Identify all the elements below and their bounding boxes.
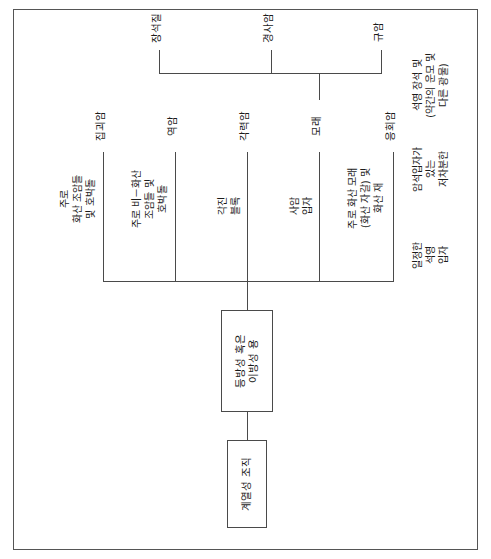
connector-sand-to-subtrunk — [319, 74, 320, 100]
branch-line-4 — [319, 244, 320, 282]
branch-term-1: 집괴암 — [94, 100, 107, 152]
branch-term-4: 모래 — [310, 100, 323, 152]
branch-line-3 — [247, 244, 248, 282]
connector-level2-to-trunk — [247, 282, 248, 310]
node-root: 계열성 조직 — [227, 440, 267, 528]
sub-branch-term-2: 경사암 — [262, 4, 275, 52]
branch-line-2 — [175, 244, 176, 282]
branch-line-5-ext — [393, 152, 394, 244]
branch-term-2: 역암 — [166, 100, 179, 152]
branch-line-1 — [103, 244, 104, 282]
connector-root-to-level2 — [247, 412, 248, 440]
branch-descriptor-1: 주로 화산 조암들 및 호박돌 — [59, 140, 97, 258]
sub-branch-term-1: 규암 — [372, 12, 385, 52]
branch-descriptor-4: 사암 입자 — [289, 160, 315, 252]
sub-branch-descriptor-2: 암석입자가 있는 저차분한 — [412, 131, 450, 207]
sub-branch-line-2 — [271, 50, 272, 74]
figure-page: 계열성 조직 등방성 혹은 이방성 용 주로 화산 조암들 및 호박돌 집괴암 … — [0, 0, 491, 559]
branch-descriptor-5: 주로 화산 모래 (화산 자갈) 및 화산 재 — [347, 136, 385, 260]
branch-line-5 — [393, 244, 394, 282]
branch-term-3: 각력암 — [238, 100, 251, 152]
sub-branch-descriptor-1: 일정한 석영 입자 — [412, 217, 450, 293]
branch-line-3-ext — [247, 152, 248, 244]
branch-descriptor-3: 각진 블록 — [217, 158, 243, 254]
sub-branch-descriptor-3: 석영 장석 및 (약간의 운모 및 다른 광물) — [412, 39, 450, 131]
branch-line-1-ext — [103, 152, 104, 244]
sub-branch-term-3: 장석질 — [150, 4, 163, 52]
diagram-canvas: 계열성 조직 등방성 혹은 이방성 용 주로 화산 조암들 및 호박돌 집괴암 … — [31, 20, 461, 540]
sub-trunk-vertical — [159, 73, 381, 74]
branch-line-2-ext — [175, 152, 176, 244]
sub-branch-line-3 — [159, 50, 160, 74]
branch-descriptor-2: 주로 비－화산 조암들 및 호박돌 — [131, 140, 169, 258]
node-level2: 등방성 혹은 이방성 용 — [221, 310, 273, 412]
branch-term-5: 응회암 — [384, 100, 397, 152]
branch-line-4-ext — [319, 152, 320, 244]
sub-branch-line-1 — [381, 50, 382, 74]
